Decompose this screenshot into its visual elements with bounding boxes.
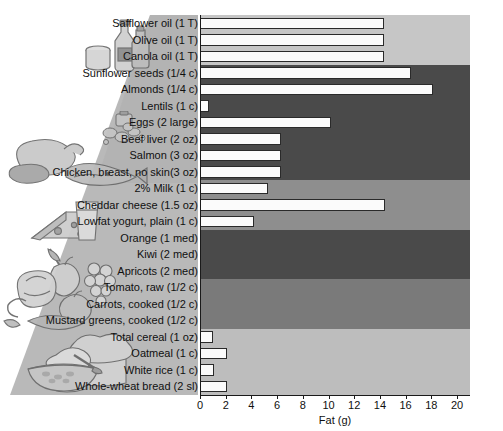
chart-row: Eggs (2 large)	[0, 114, 503, 131]
category-label: Tomato, raw (1/2 c)	[104, 279, 198, 296]
chart-row: Olive oil (1 T)	[0, 32, 503, 49]
chart-row: Almonds (1/4 c)	[0, 81, 503, 98]
bar-3	[200, 67, 411, 79]
x-tick-label: 12	[348, 399, 360, 411]
chart-row: 2% Milk (1 c)	[0, 180, 503, 197]
category-label: Cheddar cheese (1.5 oz)	[77, 197, 198, 214]
x-tick-label: 6	[274, 399, 280, 411]
chart-row: White rice (1 c)	[0, 362, 503, 379]
chart-row: Lentils (1 c)	[0, 98, 503, 115]
bar-19	[200, 331, 213, 343]
chart-row: Tomato, raw (1/2 c)	[0, 279, 503, 296]
category-label: Orange (1 med)	[120, 230, 198, 247]
chart-row: Oatmeal (1 c)	[0, 345, 503, 362]
bar-2	[200, 51, 384, 63]
chart-row: Orange (1 med)	[0, 230, 503, 247]
category-label: Kiwi (2 med)	[137, 246, 198, 263]
bar-22	[200, 381, 227, 393]
category-label: Whole-wheat bread (2 sl)	[75, 378, 198, 395]
x-tick-label: 0	[197, 399, 203, 411]
chart-row: Canola oil (1 T)	[0, 48, 503, 65]
bar-5	[200, 100, 209, 112]
x-tick-label: 8	[300, 399, 306, 411]
bar-4	[200, 84, 433, 96]
category-label: Lentils (1 c)	[141, 98, 198, 115]
x-tick-label: 20	[451, 399, 463, 411]
bar-7	[200, 133, 281, 145]
chart-row: Sunflower seeds (1/4 c)	[0, 65, 503, 82]
x-tick-label: 2	[223, 399, 229, 411]
x-axis-title: Fat (g)	[200, 414, 470, 426]
category-label: Beef liver (2 oz)	[121, 131, 198, 148]
bar-10	[200, 183, 268, 195]
chart-row: Whole-wheat bread (2 sl)	[0, 378, 503, 395]
x-tick-label: 10	[322, 399, 334, 411]
chart-row: Safflower oil (1 T)	[0, 15, 503, 32]
category-label: Carrots, cooked (1/2 c)	[86, 296, 198, 313]
chart-row: Apricots (2 med)	[0, 263, 503, 280]
chart-row: Chicken, breast, no skin(3 oz)	[0, 164, 503, 181]
category-label: White rice (1 c)	[124, 362, 198, 379]
category-label: Sunflower seeds (1/4 c)	[82, 65, 198, 82]
chart-row: Carrots, cooked (1/2 c)	[0, 296, 503, 313]
bar-8	[200, 150, 281, 162]
chart-row: Kiwi (2 med)	[0, 246, 503, 263]
chart-row: Mustard greens, cooked (1/2 c)	[0, 312, 503, 329]
bar-6	[200, 117, 331, 129]
category-label: Oatmeal (1 c)	[131, 345, 198, 362]
bar-11	[200, 199, 385, 211]
x-tick-label: 4	[248, 399, 254, 411]
chart-row: Total cereal (1 oz)	[0, 329, 503, 346]
bar-21	[200, 364, 214, 376]
category-label: Eggs (2 large)	[129, 114, 198, 131]
x-tick-label: 18	[425, 399, 437, 411]
category-label: Safflower oil (1 T)	[112, 15, 198, 32]
category-label: Apricots (2 med)	[117, 263, 198, 280]
category-label: Salmon (3 oz)	[130, 147, 198, 164]
category-label: Total cereal (1 oz)	[111, 329, 198, 346]
x-tick-label: 16	[399, 399, 411, 411]
horizontal-bar-chart: Safflower oil (1 T)Olive oil (1 T)Canola…	[0, 0, 503, 431]
chart-row: Beef liver (2 oz)	[0, 131, 503, 148]
chart-row: Salmon (3 oz)	[0, 147, 503, 164]
category-label: Lowfat yogurt, plain (1 c)	[78, 213, 198, 230]
bar-9	[200, 166, 281, 178]
bar-1	[200, 34, 384, 46]
bar-12	[200, 216, 254, 228]
category-label: Chicken, breast, no skin(3 oz)	[52, 164, 198, 181]
category-label: Almonds (1/4 c)	[121, 81, 198, 98]
x-tick-label: 14	[374, 399, 386, 411]
category-label: Mustard greens, cooked (1/2 c)	[46, 312, 198, 329]
bar-0	[200, 18, 384, 30]
chart-row: Cheddar cheese (1.5 oz)	[0, 197, 503, 214]
category-label: Olive oil (1 T)	[133, 32, 198, 49]
y-axis-line	[200, 15, 201, 395]
x-axis-line	[200, 395, 470, 396]
category-label: 2% Milk (1 c)	[134, 180, 198, 197]
bar-20	[200, 348, 227, 360]
category-label: Canola oil (1 T)	[123, 48, 198, 65]
chart-row: Lowfat yogurt, plain (1 c)	[0, 213, 503, 230]
